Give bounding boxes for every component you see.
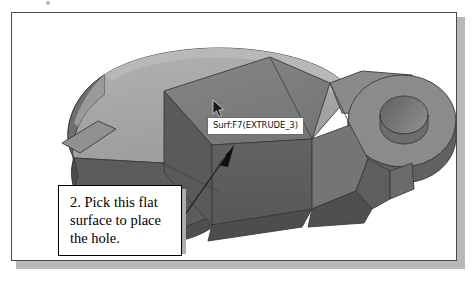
- model-viewport[interactable]: Surf:F7(EXTRUDE_3) 2. Pick this flat sur…: [12, 13, 456, 260]
- callout-line-3: the hole.: [70, 229, 172, 247]
- figure-page: Surf:F7(EXTRUDE_3) 2. Pick this flat sur…: [0, 0, 472, 286]
- callout-line-1: 2. Pick this flat: [70, 193, 172, 211]
- callout-line-2: surface to place: [70, 211, 172, 229]
- instruction-callout: 2. Pick this flat surface to place the h…: [58, 185, 182, 256]
- arrow-pointer-icon: [212, 100, 226, 118]
- figure-frame: Surf:F7(EXTRUDE_3) 2. Pick this flat sur…: [11, 12, 457, 261]
- scan-artifact-speck: [46, 1, 50, 5]
- surface-tooltip: Surf:F7(EXTRUDE_3): [207, 117, 304, 135]
